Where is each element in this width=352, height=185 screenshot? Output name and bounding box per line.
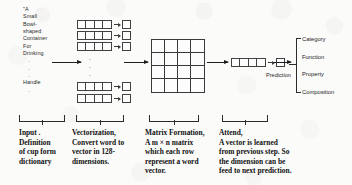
definition-line-3: Bowl-	[23, 21, 69, 28]
word-vector-cells	[77, 31, 112, 40]
vector-summary-box	[122, 94, 131, 103]
vector-row	[77, 20, 131, 29]
prediction-label: Prediction	[266, 72, 291, 78]
definition-line-7: Drinking	[23, 50, 69, 57]
output-bracket	[296, 38, 301, 93]
definition-line-5: Container	[23, 35, 69, 42]
caption-input-line-3: of cup form	[19, 147, 56, 157]
brace-attend	[222, 115, 268, 122]
caption-input-line-4: dictionary	[19, 157, 56, 167]
arrow-vector-to-box	[114, 98, 120, 100]
caption-matrix-line-3: which each row	[145, 147, 205, 157]
arrow-vector-to-box	[114, 24, 120, 26]
output-item-composition: Composition	[302, 87, 334, 105]
word-vector-cells	[77, 20, 112, 29]
caption-attend-line-3: from previous step. So	[219, 147, 292, 157]
caption-matrix-line-4: represent a word	[145, 157, 205, 167]
caption-attend: Attend, A vector is learned from previou…	[219, 128, 292, 176]
vector-summary-box	[122, 20, 131, 29]
vector-stack-ellipsis-2: .	[85, 63, 95, 70]
caption-matrix-formation: Matrix Formation, A m × n matrix which e…	[145, 128, 205, 176]
definition-ellipsis-4: .	[23, 87, 69, 94]
arrow-vector-to-box	[114, 86, 120, 88]
arrow-vectorization-to-matrix	[124, 62, 148, 63]
attention-vector-cells	[231, 58, 266, 67]
vector-row	[77, 82, 131, 91]
definition-ellipsis-2: .	[23, 65, 69, 72]
vector-row	[77, 42, 131, 51]
word-vector-cells	[77, 82, 112, 91]
vector-stack-ellipsis-1: .	[85, 55, 95, 62]
output-category-list: Category Function Property Composition	[302, 34, 334, 104]
caption-vectorization-line-4: dimensions.	[72, 157, 124, 167]
arrow-attend-to-prediction-box	[268, 62, 274, 64]
caption-attend-line-4: the dimension can be	[219, 157, 292, 167]
definition-line-1: "A	[23, 6, 69, 13]
caption-matrix-line-2: A m × n matrix	[145, 138, 205, 148]
caption-vectorization-line-2: Convert word to	[72, 138, 124, 148]
vector-stack-ellipsis-3: .	[85, 71, 95, 78]
caption-input-line-1: Input .	[19, 128, 56, 138]
output-item-function: Function	[302, 52, 334, 70]
caption-vectorization: Vectorization, Convert word to vector in…	[72, 128, 124, 166]
definition-line-2: Small	[23, 13, 69, 20]
caption-matrix-line-1: Matrix Formation,	[145, 128, 205, 138]
word-matrix	[151, 39, 205, 93]
figure-canvas: "A Small Bowl- shaped Container For Drin…	[0, 0, 352, 185]
arrow-vector-to-box	[114, 46, 120, 48]
caption-input-line-2: Definition	[19, 138, 56, 148]
vector-row	[77, 94, 131, 103]
brace-matrix	[149, 115, 199, 122]
word-vector-cells	[77, 94, 112, 103]
brace-vectorization	[76, 115, 124, 122]
caption-vectorization-line-1: Vectorization,	[72, 128, 124, 138]
definition-tail-word: Handle	[23, 79, 69, 86]
caption-attend-line-1: Attend,	[219, 128, 292, 138]
vector-row	[77, 31, 131, 40]
arrow-input-to-vectorization	[52, 62, 81, 63]
caption-matrix-line-5: vector.	[145, 166, 205, 176]
arrow-prediction-to-outputs	[274, 62, 291, 63]
output-item-property: Property	[302, 69, 334, 87]
vector-summary-box	[122, 42, 131, 51]
caption-vectorization-line-3: vector in 128-	[72, 147, 124, 157]
arrow-vector-to-box	[114, 35, 120, 37]
vector-summary-box	[122, 31, 131, 40]
definition-ellipsis-3: .	[23, 72, 69, 79]
output-item-category: Category	[302, 34, 334, 52]
input-definition-text: "A Small Bowl- shaped Container For Drin…	[23, 6, 69, 94]
caption-attend-line-5: feed to next prediction.	[219, 166, 292, 176]
brace-input	[19, 115, 65, 122]
definition-line-4: shaped	[23, 28, 69, 35]
definition-line-6: For	[23, 43, 69, 50]
caption-attend-line-2: A vector is learned	[219, 138, 292, 148]
word-vector-cells	[77, 42, 112, 51]
vector-summary-box	[122, 82, 131, 91]
arrow-matrix-to-attend	[207, 62, 228, 63]
caption-input: Input . Definition of cup form dictionar…	[19, 128, 56, 166]
